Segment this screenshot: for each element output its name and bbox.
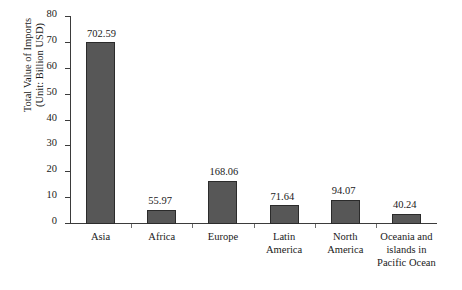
bar-column[interactable]: 40.24	[392, 214, 421, 224]
y-tick: 50	[65, 94, 71, 95]
bar[interactable]: 40.24	[392, 214, 421, 224]
x-category-label: Oceania and islands in Pacific Ocean	[376, 231, 437, 269]
y-tick-label: 80	[47, 9, 58, 20]
x-tick	[254, 224, 255, 228]
y-axis-title-line-1: Total Value of Imports	[22, 18, 34, 112]
x-category-label: Europe	[192, 231, 253, 244]
bar-column[interactable]: 168.06	[208, 181, 237, 224]
x-tick	[315, 224, 316, 228]
x-tick	[376, 224, 377, 228]
y-tick-label: 70	[47, 35, 58, 46]
y-tick-label: 40	[47, 113, 58, 124]
bar-column[interactable]: 702.59	[86, 42, 115, 224]
y-tick: 60	[65, 68, 71, 69]
y-tick-label: 20	[47, 164, 58, 175]
bar-column[interactable]: 55.97	[147, 210, 176, 224]
y-axis-line	[70, 17, 71, 224]
y-tick: 0	[65, 223, 71, 224]
y-tick-label: 30	[47, 138, 58, 149]
y-tick-label: 60	[47, 61, 58, 72]
y-tick-label: 10	[47, 190, 58, 201]
y-axis-title: Total Value of Imports (Unit: Billion US…	[17, 0, 51, 145]
plot-area: 01020304050607080 702.5955.97168.0671.64…	[70, 17, 437, 224]
bar-value-label: 168.06	[209, 167, 238, 178]
y-tick-label: 0	[52, 216, 57, 227]
y-tick: 30	[65, 145, 71, 146]
y-tick: 70	[65, 42, 71, 43]
x-category-label: Asia	[70, 231, 131, 244]
bar-value-label: 55.97	[148, 196, 172, 207]
x-tick	[192, 224, 193, 228]
y-axis-title-line-2: (Unit: Billion USD)	[34, 23, 46, 107]
bar-value-label: 71.64	[271, 192, 295, 203]
bar[interactable]: 71.64	[270, 205, 299, 224]
x-category-label: North America	[315, 231, 376, 257]
y-tick: 40	[65, 120, 71, 121]
bar[interactable]: 702.59	[86, 42, 115, 224]
y-tick: 20	[65, 171, 71, 172]
bar-value-label: 40.24	[393, 200, 417, 211]
x-tick	[131, 224, 132, 228]
x-category-label: Africa	[131, 231, 192, 244]
bar[interactable]: 94.07	[331, 200, 360, 224]
y-tick: 80	[65, 16, 71, 17]
y-tick: 10	[65, 197, 71, 198]
y-tick-label: 50	[47, 87, 58, 98]
bar-column[interactable]: 71.64	[270, 205, 299, 224]
bar-value-label: 94.07	[332, 186, 356, 197]
bar[interactable]: 55.97	[147, 210, 176, 224]
x-category-label: Latin America	[254, 231, 315, 257]
bar[interactable]: 168.06	[208, 181, 237, 224]
bar-column[interactable]: 94.07	[331, 200, 360, 224]
bar-value-label: 702.59	[87, 29, 116, 40]
bar-chart: Total Value of Imports (Unit: Billion US…	[0, 0, 462, 290]
